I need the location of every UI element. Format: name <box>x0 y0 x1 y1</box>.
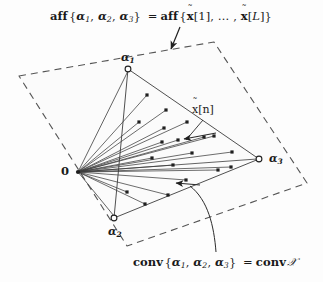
tilde-accent-3: ˜ <box>193 98 198 108</box>
comma-1: , <box>90 9 98 23</box>
alpha-1-sub: 1 <box>85 15 90 24</box>
affine-plane-boundary <box>19 42 307 246</box>
brace-open-2: { <box>179 9 186 23</box>
comma-4: , <box>207 255 215 269</box>
brace-close-1: } <box>133 9 140 23</box>
origin-marker <box>76 170 80 174</box>
alpha3-index: 3 <box>277 157 282 166</box>
affine-hull-equation: aff {α1, α2, α3} =aff {˜x[1], … , ˜x[L]} <box>50 11 272 23</box>
alpha-1-sym: α <box>76 9 85 23</box>
alpha-2-sym: α <box>98 9 107 23</box>
alpha-2-sub: 2 <box>107 15 112 24</box>
vertex-marker-alpha3 <box>256 156 262 162</box>
brace-open-3: { <box>164 255 171 269</box>
conv-operator-left: conv <box>133 255 163 269</box>
figure-container: aff {α1, α2, α3} =aff {˜x[1], … , ˜x[L]}… <box>0 0 323 282</box>
alpha-2-sub-b: 2 <box>202 261 207 270</box>
diagram-canvas <box>0 0 323 282</box>
data-point-label: ˜x[n] <box>192 104 214 115</box>
vertex-label-alpha3: α3 <box>269 153 283 164</box>
alpha-3-sub: 3 <box>128 15 133 24</box>
tilde-accent-1: ˜ <box>188 4 193 15</box>
aff-operator-right: aff <box>160 9 178 23</box>
index-bracket-1: [1] <box>194 9 211 23</box>
alpha-2-sym-b: α <box>193 255 202 269</box>
equals-sign-bottom: = <box>240 255 256 269</box>
index-L: L <box>252 9 260 23</box>
alpha1-index: 1 <box>129 56 134 65</box>
vertex-label-alpha2: α2 <box>108 226 122 237</box>
vertex-marker-alpha2 <box>111 215 117 221</box>
aff-operator-left: aff <box>50 9 68 23</box>
vertex-label-alpha1: α1 <box>121 52 135 63</box>
ellipsis: , … , <box>210 9 240 23</box>
alpha-1-sub-b: 1 <box>181 261 186 270</box>
alpha-3-sub-b: 3 <box>224 261 229 270</box>
origin-label: 0 <box>61 166 69 178</box>
data-point-index: [n] <box>198 103 214 116</box>
alpha-3-sym-b: α <box>215 255 224 269</box>
alpha-1-sym-b: α <box>172 255 181 269</box>
vertex-marker-alpha1 <box>125 66 131 72</box>
brace-close-3: } <box>229 255 236 269</box>
script-x-symbol: 𝒳 <box>287 255 297 269</box>
tilde-accent-2: ˜ <box>241 4 246 15</box>
equals-sign-top: = <box>145 9 161 23</box>
brace-close-2: } <box>265 9 272 23</box>
aff-annotation-arrow <box>171 27 180 49</box>
alpha2-index: 2 <box>116 230 121 239</box>
conv-operator-right: conv <box>256 255 286 269</box>
convex-hull-equation: conv {α1, α2, α3} =conv 𝒳 <box>133 257 297 269</box>
